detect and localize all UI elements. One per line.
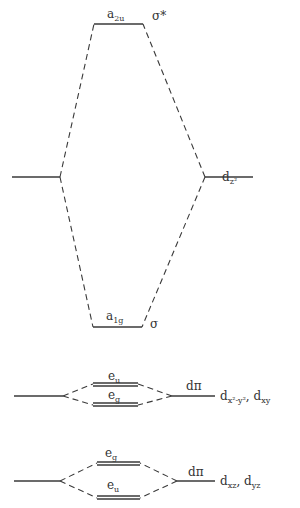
connector-pi2-ru	[140, 463, 177, 481]
mo-diagram: a2u σ* a1g σ dz² eu eg dπ dx²-y², dxy eg…	[0, 0, 300, 508]
label-dx2y2-dxy: dx²-y², dxy	[220, 389, 271, 405]
connector-pi1-ld	[63, 396, 93, 405]
connector-right-up	[143, 24, 205, 177]
label-dz2: dz²	[222, 170, 237, 186]
connector-pi2-rd	[140, 481, 177, 498]
connector-pi2-lu	[60, 463, 97, 481]
connector-right-down	[142, 177, 205, 327]
label-eg-lower: eg	[105, 446, 117, 462]
label-dxz-dyz: dxz, dyz	[220, 474, 260, 490]
connector-left-up	[60, 24, 94, 177]
connector-pi1-lu	[63, 384, 93, 396]
label-eu-upper: eu	[108, 369, 120, 385]
label-sigma-star: σ*	[152, 9, 166, 23]
label-a2u: a2u	[107, 7, 124, 23]
label-sigma: σ	[150, 317, 158, 331]
label-eg-upper: eg	[108, 388, 120, 404]
label-dpi-lower: dπ	[188, 465, 204, 479]
label-dpi-upper: dπ	[186, 379, 202, 393]
label-a1g: a1g	[106, 309, 123, 325]
connector-pi2-ld	[60, 481, 97, 498]
label-eu-lower: eu	[107, 478, 119, 494]
connector-pi1-ru	[138, 384, 172, 396]
connector-pi1-rd	[138, 396, 172, 405]
connector-left-down	[60, 177, 93, 327]
